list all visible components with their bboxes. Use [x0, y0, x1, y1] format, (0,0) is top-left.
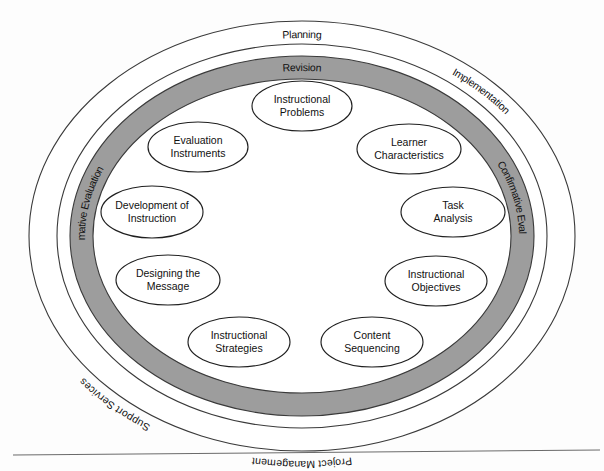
node-label-line2: Instruction — [128, 212, 177, 224]
node-evaluation-instruments[interactable]: Evaluation Instruments — [148, 122, 248, 172]
ring-label-project-management: Project Management — [251, 456, 353, 471]
node-label-line1: Evaluation — [173, 134, 222, 146]
node-label-line2: Message — [147, 280, 190, 292]
node-instructional-strategies[interactable]: Instructional Strategies — [188, 317, 290, 367]
node-instructional-problems[interactable]: Instructional Problems — [252, 81, 352, 131]
node-development-of-instruction[interactable]: Development of Instruction — [101, 186, 203, 238]
node-label-line2: Problems — [280, 106, 324, 118]
model-canvas: Planning Implementation Confirmative Eva… — [0, 0, 604, 471]
node-task-analysis[interactable]: Task Analysis — [401, 187, 505, 237]
ring-label-revision: Revision — [282, 61, 322, 74]
node-label-line2: Characteristics — [374, 149, 443, 161]
node-label-line2: Sequencing — [344, 342, 400, 354]
node-label-line2: Strategies — [215, 342, 262, 354]
node-label-line2: Objectives — [411, 281, 460, 293]
node-label-line1: Task — [442, 199, 464, 211]
node-label-line1: Instructional — [211, 329, 268, 341]
node-designing-the-message[interactable]: Designing the Message — [116, 255, 220, 305]
node-label-line2: Instruments — [171, 147, 226, 159]
ring-label-planning: Planning — [282, 28, 322, 41]
node-label-line1: Designing the — [136, 267, 200, 279]
node-content-sequencing[interactable]: Content Sequencing — [321, 317, 423, 367]
node-instructional-objectives[interactable]: Instructional Objectives — [385, 256, 487, 306]
node-label-line2: Analysis — [433, 212, 472, 224]
node-label-line1: Content — [354, 329, 391, 341]
node-label-line1: Development of — [115, 199, 189, 211]
node-label-line1: Learner — [391, 136, 428, 148]
node-learner-characteristics[interactable]: Learner Characteristics — [357, 124, 461, 174]
instructional-design-diagram: Planning Implementation Confirmative Eva… — [0, 0, 604, 471]
node-label-line1: Instructional — [408, 268, 465, 280]
node-label-line1: Instructional — [274, 93, 331, 105]
